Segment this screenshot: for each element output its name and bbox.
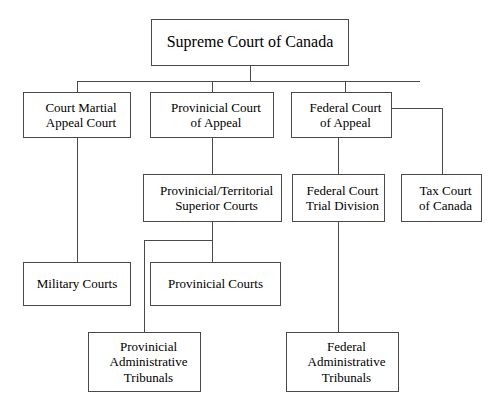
node-federal-trial-division-line1: Federal Court xyxy=(297,183,388,198)
node-court-martial-appeal-court-line1: Court Martial xyxy=(28,100,134,115)
connector-superior-bus xyxy=(144,240,213,241)
connector-superior-stub xyxy=(212,222,213,240)
node-provincial-tribunals-line1: Provinicial xyxy=(93,339,204,354)
node-tax-court-line1: Tax Court xyxy=(406,183,485,198)
node-provincial-territorial-superior-courts: Provinicial/Territorial Superior Courts xyxy=(143,174,282,222)
node-federal-tribunals-line2: Administrative xyxy=(291,354,402,369)
node-supreme-court-label: Supreme Court of Canada xyxy=(152,33,348,52)
connector-federal-appeal-to-trial xyxy=(338,138,339,174)
node-superior-courts-line2: Superior Courts xyxy=(148,198,285,213)
connector-supreme-stub xyxy=(250,66,251,81)
node-provincial-courts: Provinicial Courts xyxy=(150,262,281,306)
node-military-courts-label: Military Courts xyxy=(24,276,130,291)
node-federal-court-trial-division: Federal Court Trial Division xyxy=(292,174,385,222)
connector-superior-to-provincial-tribunals xyxy=(144,240,145,332)
connector-federal-appeal-to-tax-horizontal xyxy=(392,108,442,109)
node-provincial-court-of-appeal-line2: of Appeal xyxy=(155,115,277,130)
node-provincial-court-of-appeal: Provinicial Court of Appeal xyxy=(150,92,274,138)
node-federal-administrative-tribunals: Federal Administrative Tribunals xyxy=(286,332,399,392)
node-supreme-court: Supreme Court of Canada xyxy=(151,19,349,66)
node-federal-tribunals-line3: Tribunals xyxy=(291,370,402,385)
node-court-martial-appeal-court: Court Martial Appeal Court xyxy=(23,92,131,138)
node-provincial-court-of-appeal-line1: Provinicial Court xyxy=(155,100,277,115)
connector-federal-trial-to-tribunals xyxy=(338,222,339,332)
node-tax-court-line2: of Canada xyxy=(406,198,485,213)
node-federal-court-of-appeal-line1: Federal Court xyxy=(296,100,395,115)
connector-row2-branch-court-martial xyxy=(77,81,78,92)
node-federal-tribunals-line1: Federal xyxy=(291,339,402,354)
node-provincial-tribunals-line2: Administrative xyxy=(93,354,204,369)
connector-federal-appeal-to-tax-vertical xyxy=(442,108,443,174)
court-system-hierarchy-diagram: Supreme Court of Canada Court Martial Ap… xyxy=(0,0,502,415)
node-superior-courts-line1: Provinicial/Territorial xyxy=(148,183,285,198)
connector-row2-branch-provincial-appeal xyxy=(212,81,213,92)
node-federal-court-of-appeal: Federal Court of Appeal xyxy=(291,92,392,138)
connector-court-martial-to-military xyxy=(77,138,78,262)
node-federal-trial-division-line2: Trial Division xyxy=(297,198,388,213)
node-provincial-courts-label: Provinicial Courts xyxy=(151,276,280,291)
node-provincial-tribunals-line3: Tribunals xyxy=(93,370,204,385)
connector-provincial-appeal-to-superior xyxy=(212,138,213,174)
node-military-courts: Military Courts xyxy=(23,262,131,306)
node-provincial-administrative-tribunals: Provinicial Administrative Tribunals xyxy=(88,332,201,392)
node-federal-court-of-appeal-line2: of Appeal xyxy=(296,115,395,130)
connector-superior-to-provincial-courts xyxy=(212,240,213,262)
node-tax-court-of-canada: Tax Court of Canada xyxy=(401,174,482,222)
connector-row2-bus xyxy=(77,81,420,82)
node-court-martial-appeal-court-line2: Appeal Court xyxy=(28,115,134,130)
connector-row2-branch-federal-appeal xyxy=(345,81,346,92)
